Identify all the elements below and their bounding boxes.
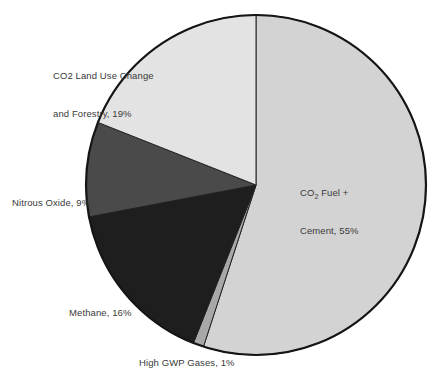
slice-label-high-gwp-gases: High GWP Gases, 1% xyxy=(139,357,235,370)
slice-label-methane: Methane, 16% xyxy=(69,307,131,320)
co2-suffix-text: Fuel + xyxy=(318,187,348,198)
pie-chart-figure: CO2 Land Use Change and Forestry, 19% CO… xyxy=(0,0,441,380)
slice-label-co2-fuel-cement-line1: CO2 Fuel + xyxy=(300,187,359,200)
slice-label-co2-fuel-cement-line2: Cement, 55% xyxy=(300,225,359,238)
slice-label-land-use: CO2 Land Use Change and Forestry, 19% xyxy=(53,45,154,145)
slice-label-co2-fuel-cement: CO2 Fuel + Cement, 55% xyxy=(300,162,359,262)
slice-label-land-use-line1: CO2 Land Use Change xyxy=(53,70,154,83)
co2-prefix-text: CO xyxy=(300,187,314,198)
slice-label-nitrous-oxide: Nitrous Oxide, 9% xyxy=(12,197,90,210)
slice-label-land-use-line2: and Forestry, 19% xyxy=(53,108,154,121)
